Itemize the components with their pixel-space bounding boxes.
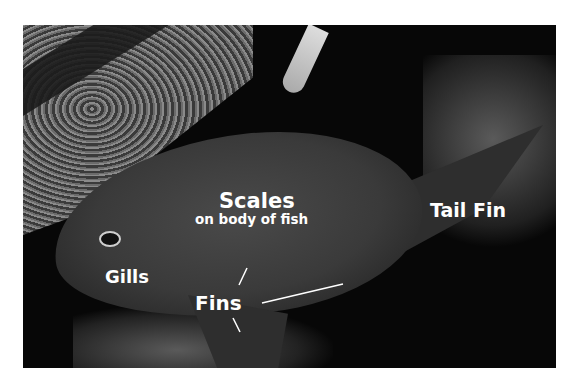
- label-tail-fin: Tail Fin: [430, 201, 506, 220]
- label-fins: Fins: [195, 293, 242, 313]
- label-scales: Scales: [219, 191, 295, 212]
- label-scales-subtitle: on body of fish: [195, 213, 308, 227]
- label-gills: Gills: [105, 268, 149, 286]
- fish-eye: [99, 231, 121, 247]
- light-streak: [279, 25, 329, 96]
